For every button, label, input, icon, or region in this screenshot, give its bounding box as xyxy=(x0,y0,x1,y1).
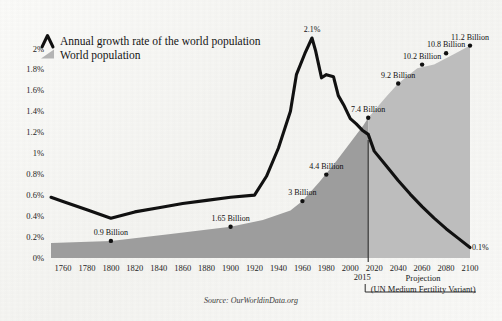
data-label-8: 11.2 Billion xyxy=(451,33,489,42)
data-label-5: 9.2 Billion xyxy=(381,71,415,80)
data-label-0: 0.9 Billion xyxy=(94,228,128,237)
x-tick-2100: 2100 xyxy=(462,263,479,273)
x-tick-1820: 1820 xyxy=(126,263,143,273)
data-label-1: 1.65 Billion xyxy=(211,214,249,223)
x-tick-1760: 1760 xyxy=(55,263,72,273)
chart-canvas: 0%0.2%0.4%0.6%0.8%1%1.2%1.4%1.6%1.8%2% 1… xyxy=(0,0,502,321)
x-tick-1900: 1900 xyxy=(222,263,239,273)
source-credit: Source: OurWorldinData.org xyxy=(204,296,298,305)
population-dot xyxy=(228,225,232,229)
data-label-9: 2.1% xyxy=(304,25,321,34)
x-tick-2060: 2060 xyxy=(414,263,431,273)
peak-line-icon xyxy=(42,36,53,48)
x-tick-1940: 1940 xyxy=(270,263,287,273)
x-tick-1800: 1800 xyxy=(102,263,119,273)
data-label-4: 7.4 Billion xyxy=(351,105,385,114)
x-tick-1780: 1780 xyxy=(78,263,95,273)
divider-year-label: 2015 xyxy=(354,272,371,282)
y-tick-9: 1.8% xyxy=(26,64,44,74)
population-dot xyxy=(468,43,472,47)
x-tick-2040: 2040 xyxy=(390,263,407,273)
population-dot xyxy=(300,199,304,203)
data-label-3: 4.4 Billion xyxy=(309,162,343,171)
world-population-area-historical xyxy=(51,118,368,258)
y-axis-tick-labels: 0%0.2%0.4%0.6%0.8%1%1.2%1.4%1.6%1.8%2% xyxy=(26,44,44,264)
legend-item-world-population: World population xyxy=(60,49,141,62)
world-population-growth-chart: 0%0.2%0.4%0.6%0.8%1%1.2%1.4%1.6%1.8%2% 1… xyxy=(0,0,502,321)
x-tick-2080: 2080 xyxy=(438,263,455,273)
chart-legend: Annual growth rate of the world populati… xyxy=(41,35,261,62)
population-dot xyxy=(324,172,328,176)
projection-sublabel: (UN Medium Fertility Variant) xyxy=(371,284,476,294)
x-tick-1840: 1840 xyxy=(150,263,167,273)
population-dot xyxy=(444,51,448,55)
x-tick-1980: 1980 xyxy=(318,263,335,273)
y-tick-3: 0.6% xyxy=(26,190,44,200)
legend-item-growth-rate: Annual growth rate of the world populati… xyxy=(60,35,261,48)
y-tick-7: 1.4% xyxy=(26,106,44,116)
data-label-10: 0.1% xyxy=(472,243,489,252)
y-tick-5: 1% xyxy=(33,148,44,158)
y-tick-0: 0% xyxy=(33,253,44,263)
x-tick-1920: 1920 xyxy=(246,263,263,273)
population-dot xyxy=(109,239,113,243)
population-dot xyxy=(366,116,370,120)
population-dot xyxy=(420,62,424,66)
x-tick-1960: 1960 xyxy=(294,263,311,273)
data-label-6: 10.2 Billion xyxy=(403,52,441,61)
y-tick-4: 0.8% xyxy=(26,169,44,179)
y-tick-8: 1.6% xyxy=(26,85,44,95)
data-label-2: 3 Billion xyxy=(288,188,316,197)
y-tick-6: 1.2% xyxy=(26,127,44,137)
x-tick-1860: 1860 xyxy=(174,263,191,273)
x-tick-1880: 1880 xyxy=(198,263,215,273)
population-dot xyxy=(396,81,400,85)
y-tick-2: 0.4% xyxy=(26,211,44,221)
y-tick-1: 0.2% xyxy=(26,232,44,242)
projection-label: Projection xyxy=(406,273,442,283)
x-axis-tick-labels: 1760178018001820184018601880190019201940… xyxy=(55,263,479,273)
